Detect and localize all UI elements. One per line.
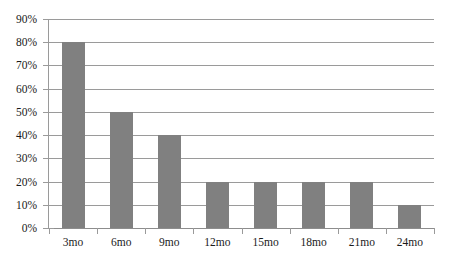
y-tick-mark bbox=[43, 89, 54, 90]
y-tick-label: 80% bbox=[16, 36, 37, 48]
y-tick-label: 30% bbox=[16, 152, 37, 164]
bar bbox=[206, 182, 229, 228]
y-axis: 0%10%20%30%40%50%60%70%80%90% bbox=[0, 0, 44, 272]
x-axis-ticks bbox=[49, 228, 434, 235]
y-tick-mark bbox=[43, 228, 54, 229]
y-tick-label: 70% bbox=[16, 59, 37, 71]
x-tick-mark bbox=[145, 228, 146, 234]
y-tick-label: 0% bbox=[22, 222, 37, 234]
x-tick-mark bbox=[193, 228, 194, 234]
x-tick-label: 24mo bbox=[397, 236, 423, 248]
bar-chart: 0%10%20%30%40%50%60%70%80%90% 3mo6mo9mo1… bbox=[0, 0, 450, 272]
bar bbox=[62, 42, 85, 228]
y-tick-mark bbox=[43, 158, 54, 159]
x-tick-label: 3mo bbox=[63, 236, 83, 248]
bar bbox=[110, 112, 133, 228]
bar bbox=[350, 182, 373, 228]
x-tick-mark bbox=[242, 228, 243, 234]
y-tick-label: 40% bbox=[16, 129, 37, 141]
y-tick-mark bbox=[43, 135, 54, 136]
x-tick-mark bbox=[434, 228, 435, 234]
bar bbox=[302, 182, 325, 228]
x-axis: 3mo6mo9mo12mo15mo18mo21mo24mo bbox=[49, 236, 434, 256]
y-tick-mark bbox=[43, 65, 54, 66]
y-tick-label: 10% bbox=[16, 199, 37, 211]
x-tick-label: 18mo bbox=[301, 236, 327, 248]
y-tick-label: 20% bbox=[16, 176, 37, 188]
x-tick-mark bbox=[290, 228, 291, 234]
y-tick-mark bbox=[43, 19, 54, 20]
x-tick-mark bbox=[386, 228, 387, 234]
x-tick-label: 21mo bbox=[349, 236, 375, 248]
bar bbox=[398, 205, 421, 228]
bar bbox=[158, 135, 181, 228]
x-tick-label: 6mo bbox=[111, 236, 131, 248]
y-tick-mark bbox=[43, 112, 54, 113]
y-tick-mark bbox=[43, 182, 54, 183]
bars-layer bbox=[49, 19, 434, 228]
x-tick-label: 9mo bbox=[159, 236, 179, 248]
y-tick-label: 60% bbox=[16, 83, 37, 95]
x-tick-mark bbox=[97, 228, 98, 234]
x-tick-label: 12mo bbox=[204, 236, 230, 248]
x-tick-mark bbox=[338, 228, 339, 234]
y-tick-label: 90% bbox=[16, 13, 37, 25]
x-tick-label: 15mo bbox=[252, 236, 278, 248]
y-tick-label: 50% bbox=[16, 106, 37, 118]
y-tick-mark bbox=[43, 42, 54, 43]
y-tick-mark bbox=[43, 205, 54, 206]
bar bbox=[254, 182, 277, 228]
